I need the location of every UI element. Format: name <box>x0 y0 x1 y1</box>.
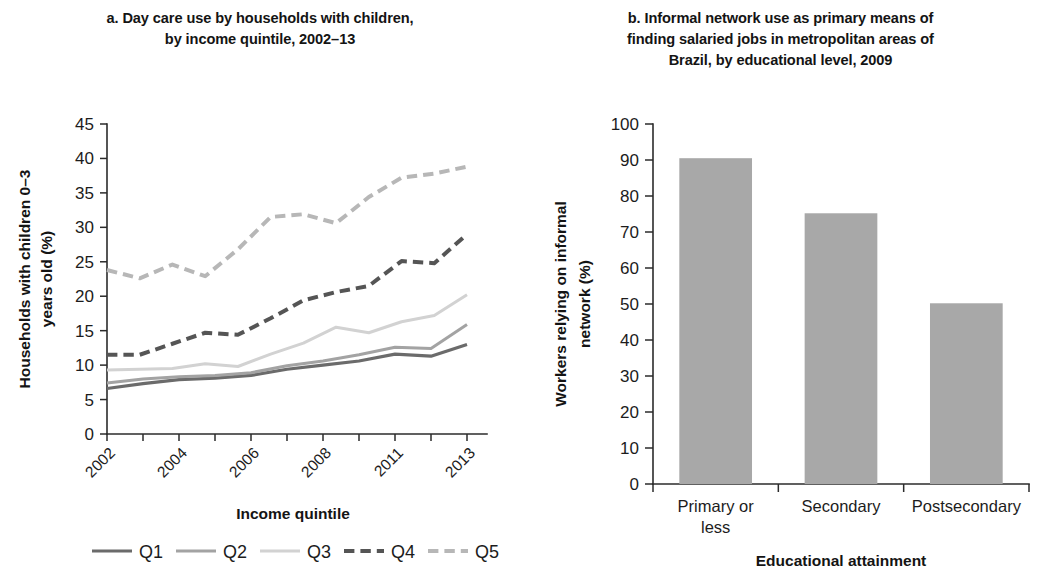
panel-a-y-tick-label: 40 <box>75 149 94 168</box>
panel-a-x-tick-label: 2002 <box>82 444 118 480</box>
panel-a-x-axis-title: Income quintile <box>236 505 350 522</box>
panel-b-y-tick-label: 100 <box>611 115 639 134</box>
panel-b-y-tick-label: 40 <box>620 331 639 350</box>
legend-label-q3: Q3 <box>307 542 331 562</box>
panel-a-y-tick-label: 20 <box>75 287 94 306</box>
panel-b-y-axis-title: network (%) <box>576 260 593 348</box>
panel-a-plot-area: 0510152025303540452002200420062008201120… <box>0 0 520 574</box>
panel-a-series-q3 <box>107 295 467 370</box>
panel-a-y-tick-label: 15 <box>75 322 94 341</box>
panel-a-y-tick-label: 5 <box>85 391 94 410</box>
legend-label-q1: Q1 <box>139 542 163 562</box>
panel-b-y-tick-label: 50 <box>620 295 639 314</box>
panel-b-category-label-1: Primary or <box>678 497 755 515</box>
figure-container: a. Day care use by households with child… <box>0 0 1041 574</box>
panel-a-y-tick-label: 35 <box>75 184 94 203</box>
panel-b-y-tick-label: 30 <box>620 367 639 386</box>
bar-2[interactable] <box>805 213 878 484</box>
panel-b-bar-chart: b. Informal network use as primary means… <box>520 0 1041 574</box>
panel-b-y-axis-title: Workers relying on informal <box>552 201 569 407</box>
panel-b-y-tick-label: 10 <box>620 439 639 458</box>
panel-b-y-tick-label: 60 <box>620 259 639 278</box>
panel-b-category-label-3: Postsecondary <box>912 497 1022 515</box>
panel-b-svg: 0102030405060708090100Primary orlessSeco… <box>520 0 1041 574</box>
panel-a-y-tick-label: 30 <box>75 218 94 237</box>
panel-a-series-q4 <box>107 234 467 355</box>
panel-a-x-tick-label: 2011 <box>371 444 407 480</box>
panel-a-y-axis-title: Households with children 0–3 <box>16 169 33 388</box>
panel-a-x-tick-label: 2008 <box>298 444 334 480</box>
panel-b-category-label-1: less <box>701 518 730 536</box>
legend-label-q4: Q4 <box>391 542 415 562</box>
panel-b-plot-area: 0102030405060708090100Primary orlessSeco… <box>520 0 1041 574</box>
panel-b-y-tick-label: 80 <box>620 187 639 206</box>
panel-b-x-axis-title: Educational attainment <box>756 552 927 569</box>
panel-a-svg: 0510152025303540452002200420062008201120… <box>0 0 520 574</box>
panel-a-y-tick-label: 10 <box>75 356 94 375</box>
panel-b-y-tick-label: 70 <box>620 223 639 242</box>
panel-a-y-axis-title: years old (%) <box>38 231 55 327</box>
panel-a-y-tick-label: 0 <box>85 425 94 444</box>
panel-a-line-chart: a. Day care use by households with child… <box>0 0 520 574</box>
panel-a-y-tick-label: 45 <box>75 115 94 134</box>
panel-a-x-tick-label: 2006 <box>226 444 262 480</box>
panel-a-x-tick-label: 2004 <box>154 444 191 481</box>
panel-b-y-tick-label: 20 <box>620 403 639 422</box>
bar-1[interactable] <box>679 158 752 484</box>
panel-b-y-tick-label: 90 <box>620 151 639 170</box>
legend-label-q5: Q5 <box>475 542 499 562</box>
legend-label-q2: Q2 <box>223 542 247 562</box>
panel-a-x-tick-label: 2013 <box>442 444 478 480</box>
bar-3[interactable] <box>930 303 1003 484</box>
panel-b-y-tick-label: 0 <box>630 475 639 494</box>
panel-a-y-tick-label: 25 <box>75 253 94 272</box>
panel-b-category-label-2: Secondary <box>802 497 882 515</box>
